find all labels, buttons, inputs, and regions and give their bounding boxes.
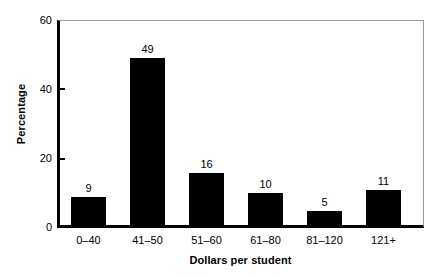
bar-value-5: 11 xyxy=(354,176,413,187)
bar-slot-3: 10 xyxy=(248,20,283,228)
bar-value-1: 49 xyxy=(118,44,177,55)
x-tick-label-1: 41–50 xyxy=(118,234,177,247)
bar-slot-0: 9 xyxy=(71,20,106,228)
bars-layer: 9 49 16 10 5 11 xyxy=(57,20,424,228)
bar-slot-2: 16 xyxy=(189,20,224,228)
bar-81-120 xyxy=(307,211,342,228)
bar-slot-5: 11 xyxy=(366,20,401,228)
x-axis-title: Dollars per student xyxy=(57,254,424,266)
bar-chart: 60 40 20 0 Percentage 9 49 16 10 xyxy=(0,0,436,278)
x-axis-labels: 0–40 41–50 51–60 61–80 81–120 121+ xyxy=(57,234,424,250)
y-tick-label-60: 60 xyxy=(12,15,52,26)
bar-61-80 xyxy=(248,193,283,228)
bar-0-40 xyxy=(71,197,106,228)
bar-41-50 xyxy=(130,58,165,228)
bar-value-2: 16 xyxy=(177,159,236,170)
bar-slot-1: 49 xyxy=(130,20,165,228)
bar-value-0: 9 xyxy=(59,183,118,194)
bar-51-60 xyxy=(189,173,224,228)
x-tick-label-2: 51–60 xyxy=(177,234,236,247)
x-tick-label-5: 121+ xyxy=(354,234,413,247)
x-tick-label-0: 0–40 xyxy=(59,234,118,247)
x-tick-label-4: 81–120 xyxy=(295,234,354,247)
y-axis-title: Percentage xyxy=(15,64,27,164)
bar-value-3: 10 xyxy=(236,179,295,190)
bar-slot-4: 5 xyxy=(307,20,342,228)
bar-121-plus xyxy=(366,190,401,228)
x-tick-label-3: 61–80 xyxy=(236,234,295,247)
y-tick-label-0: 0 xyxy=(12,222,52,233)
bar-value-4: 5 xyxy=(295,197,354,208)
